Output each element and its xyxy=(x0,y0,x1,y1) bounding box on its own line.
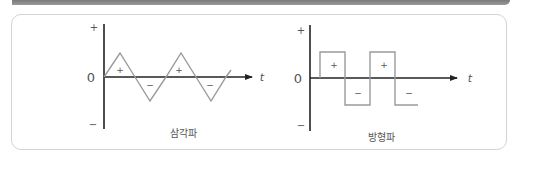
y-zero-label: 0 xyxy=(294,71,302,86)
region-label-neg-1: − xyxy=(146,80,154,90)
region-label-pos-1: + xyxy=(116,65,124,75)
y-plus-label: + xyxy=(90,22,98,33)
region-label-pos-2: + xyxy=(175,65,183,75)
wave-diagrams: + 0 − t + − + − 삼각파 + 0 − t + − + − 방형파 xyxy=(0,0,538,169)
triangle-wave-caption: 삼각파 xyxy=(170,128,197,139)
region-label-neg-2: − xyxy=(206,80,214,90)
y-minus-label: − xyxy=(297,120,305,131)
region-label-pos-2: + xyxy=(380,60,388,70)
region-label-pos-1: + xyxy=(330,60,338,70)
triangle-wave-diagram: + 0 − t + − + − 삼각파 xyxy=(87,22,265,139)
y-plus-label: + xyxy=(297,25,305,36)
y-zero-label: 0 xyxy=(87,70,95,85)
t-axis-label: t xyxy=(468,72,473,85)
square-wave-diagram: + 0 − t + − + − 방형파 xyxy=(294,25,473,143)
region-label-neg-1: − xyxy=(354,88,362,98)
region-label-neg-2: − xyxy=(405,88,413,98)
y-minus-label: − xyxy=(89,119,97,130)
square-wave-caption: 방형파 xyxy=(368,132,395,143)
t-axis-label: t xyxy=(260,71,265,84)
